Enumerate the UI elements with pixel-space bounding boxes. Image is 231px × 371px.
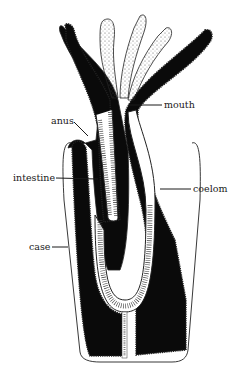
- body-wall: [59, 26, 128, 270]
- label-case: case: [29, 241, 68, 252]
- anus-label: anus: [51, 115, 74, 126]
- label-coelom: coelom: [160, 183, 227, 194]
- diagram: mouth anus intestine coelom case: [0, 0, 231, 371]
- coelom-label: coelom: [193, 183, 227, 194]
- stalk-septum: [122, 312, 127, 358]
- anus-leader: [74, 122, 88, 136]
- label-anus: anus: [51, 115, 88, 136]
- intestine-label: intestine: [13, 172, 55, 183]
- mouth-label: mouth: [164, 99, 195, 110]
- case-label: case: [29, 241, 51, 252]
- intestine-leader: [56, 178, 98, 179]
